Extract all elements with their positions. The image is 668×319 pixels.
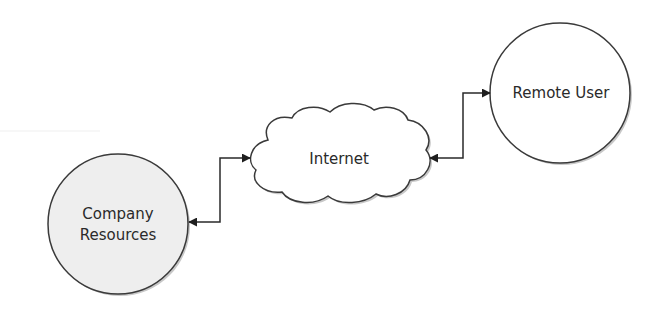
remote-user-node[interactable]: Remote User: [490, 23, 632, 165]
remote-user-label: Remote User: [513, 84, 611, 102]
connector-company-internet: [189, 158, 250, 222]
internet-label: Internet: [309, 150, 369, 168]
company-resources-label-line2: Resources: [80, 226, 157, 244]
company-resources-circle: [48, 154, 188, 294]
company-resources-label-line1: Company: [82, 205, 153, 223]
internet-node[interactable]: Internet: [251, 103, 432, 204]
connector-internet-remote: [430, 93, 490, 158]
company-resources-node[interactable]: Company Resources: [48, 154, 190, 296]
network-diagram: Company Resources Internet Remote User: [0, 0, 668, 319]
